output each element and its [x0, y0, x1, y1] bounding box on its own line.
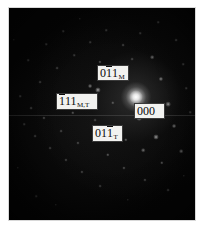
diffraction-spot: [143, 178, 146, 181]
diffraction-spot: [89, 41, 92, 44]
diffraction-spot: [150, 55, 154, 59]
diffraction-spot: [71, 111, 74, 114]
diffraction-spot: [127, 199, 129, 201]
index-label-111-mt: 111M,T: [56, 93, 98, 110]
index-label-digits: 011: [100, 67, 118, 79]
diffraction-spot: [94, 119, 97, 122]
diffraction-spot: [76, 141, 79, 144]
diffraction-spot: [179, 149, 183, 153]
diffraction-spot: [122, 44, 125, 47]
diffraction-spot: [131, 58, 134, 61]
index-digit-overbar: 1: [106, 67, 112, 79]
figure-root: 011M 111M,T 000 011T: [0, 0, 203, 231]
diffraction-spot: [124, 138, 127, 141]
diffraction-spot: [167, 189, 170, 192]
diffraction-spot: [45, 43, 48, 46]
diffraction-spot: [49, 147, 52, 150]
diffraction-spot: [39, 81, 42, 84]
diffraction-spot: [189, 111, 192, 114]
diffraction-spot: [64, 158, 67, 161]
diffraction-spot: [23, 123, 26, 126]
diffraction-spot: [34, 135, 37, 138]
diffraction-spot: [73, 54, 76, 57]
diffraction-spot: [105, 29, 108, 32]
diffraction-spot: [183, 175, 185, 177]
index-digit: 1: [71, 94, 77, 108]
diffraction-spot: [111, 101, 114, 104]
index-digit-overbar: 1: [59, 95, 65, 107]
diffraction-spot: [98, 60, 101, 63]
index-label-digits: 011: [95, 127, 113, 139]
diffraction-spot: [80, 170, 83, 173]
index-label-subscript: T: [114, 134, 118, 141]
diffraction-spot: [17, 167, 19, 169]
diffraction-spot: [172, 124, 176, 128]
index-label-digits: 000: [137, 105, 155, 117]
diffraction-spot: [159, 77, 163, 81]
index-label-subscript: M,T: [77, 102, 89, 109]
plate-vignette: [9, 8, 195, 220]
diffraction-spot: [35, 195, 38, 198]
diffraction-spot: [185, 87, 188, 90]
index-label-000: 000: [134, 103, 165, 119]
diffraction-spot: [106, 153, 109, 156]
diffraction-spot: [62, 30, 65, 33]
diffraction-spot: [79, 18, 81, 20]
diffraction-spot: [19, 95, 22, 98]
diffraction-spot: [30, 107, 33, 110]
diffraction-spot: [160, 161, 163, 164]
diffraction-spot: [130, 91, 143, 104]
index-label-011-m: 011M: [97, 65, 129, 81]
diffraction-spot: [56, 67, 59, 70]
plate-illumination-glow: [9, 8, 195, 220]
diffraction-spot: [55, 204, 57, 206]
index-digit: 1: [112, 66, 118, 80]
diffraction-spot: [95, 87, 100, 92]
index-digit: 0: [149, 104, 155, 118]
diffraction-spot: [175, 39, 178, 42]
index-digit-overbar: 1: [107, 127, 113, 139]
diffraction-spot: [157, 21, 160, 24]
diffraction-spot: [27, 59, 30, 62]
diffraction-spot: [13, 39, 15, 41]
diffraction-spot: [88, 84, 92, 88]
diffraction-spot: [154, 135, 159, 140]
diffraction-spot: [139, 32, 142, 35]
diffraction-pattern-plate: 011M 111M,T 000 011T: [9, 8, 195, 220]
plate-seam-line: [9, 115, 195, 116]
diffraction-spot: [99, 185, 102, 188]
diffraction-spot: [182, 63, 185, 66]
diffraction-spot: [122, 166, 125, 169]
index-label-digits: 111: [59, 95, 77, 107]
diffraction-spot: [141, 148, 145, 152]
diffraction-spot: [166, 102, 171, 107]
diffraction-spot: [60, 130, 63, 133]
index-label-011-t: 011T: [92, 125, 123, 142]
diffraction-spot: [42, 116, 45, 119]
index-label-subscript: M: [119, 74, 125, 81]
